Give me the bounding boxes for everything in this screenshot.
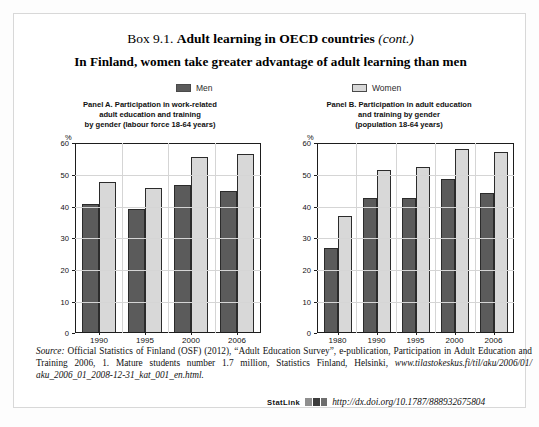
y-tick-mark: [314, 333, 317, 334]
x-tick-mark: [377, 332, 378, 335]
y-tick-label: 30: [281, 234, 311, 243]
bar-women-2006: [237, 154, 254, 333]
legend-item-women: Women: [352, 83, 401, 93]
panel-a-title-line1: Panel A. Participation in work-related: [35, 100, 265, 110]
legend-label-women: Women: [372, 83, 401, 93]
y-tick-mark: [314, 175, 317, 176]
y-tick-label: 60: [281, 139, 311, 148]
y-tick-mark: [72, 270, 75, 271]
y-tick-label: 50: [281, 171, 311, 180]
panel-a-title-line3: by gender (labour force 18-64 years): [35, 120, 265, 130]
bar-women-1990: [99, 182, 116, 332]
box-frame: Box 9.1. Adult learning in OECD countrie…: [13, 13, 526, 408]
bar-women-2006: [494, 152, 508, 332]
panel-b-title-line3: (population 18-64 years): [282, 120, 516, 130]
bar-women-1990: [377, 170, 391, 332]
legend-swatch-women-icon: [352, 84, 367, 92]
y-tick-label: 10: [39, 297, 69, 306]
y-tick-mark: [314, 270, 317, 271]
y-tick-label: 60: [39, 139, 69, 148]
bar-men-1990: [82, 204, 99, 332]
bar-women-1995: [145, 188, 162, 332]
page-root: Box 9.1. Adult learning in OECD countrie…: [0, 0, 539, 427]
panel-b-title-line2: and training by gender: [282, 110, 516, 120]
x-tick-mark: [416, 332, 417, 335]
panel-a-title-line2: adult education and training: [35, 110, 265, 120]
panel-b: Panel B. Participation in adult educatio…: [274, 100, 524, 356]
x-tick-mark: [99, 332, 100, 335]
statlink-barcode-icon: [305, 398, 327, 406]
y-tick-label: 0: [39, 329, 69, 338]
y-tick-mark: [72, 238, 75, 239]
y-tick-label: 20: [281, 266, 311, 275]
y-tick-mark: [314, 238, 317, 239]
legend-swatch-men-icon: [176, 84, 191, 92]
panel-b-title: Panel B. Participation in adult educatio…: [274, 100, 524, 129]
y-tick-mark: [314, 143, 317, 144]
gridline: [317, 175, 514, 176]
x-tick-mark: [191, 332, 192, 335]
bar-men-2006: [220, 191, 237, 332]
x-tick-mark: [455, 332, 456, 335]
source-note: Source: Official Statistics of Finland (…: [36, 345, 532, 381]
box-title-text: Adult learning in OECD countries: [177, 31, 375, 46]
y-tick-mark: [72, 143, 75, 144]
box-number: Box 9.1.: [127, 31, 173, 46]
statlink-url[interactable]: http://dx.doi.org/10.1787/888932675804: [332, 397, 485, 407]
y-tick-label: 0: [281, 329, 311, 338]
box-continued-marker: (cont.): [378, 31, 414, 46]
y-tick-mark: [72, 302, 75, 303]
y-tick-label: 30: [39, 234, 69, 243]
panel-a-axis-area: [75, 143, 261, 333]
vertical-gridline: [168, 143, 169, 333]
y-tick-label: 20: [39, 266, 69, 275]
vertical-gridline: [122, 143, 123, 333]
x-tick-mark: [237, 332, 238, 335]
x-tick-mark: [494, 332, 495, 335]
gridline: [317, 302, 514, 303]
vertical-gridline: [215, 143, 216, 333]
bar-men-2006: [480, 193, 494, 332]
statlink[interactable]: StatLink http://dx.doi.org/10.1787/88893…: [267, 397, 485, 407]
x-tick-mark: [338, 332, 339, 335]
source-lead: Source:: [36, 346, 65, 356]
chart-legend: Men Women: [14, 83, 527, 97]
vertical-gridline: [356, 143, 357, 333]
bar-women-1980: [338, 216, 352, 332]
bar-men-1980: [324, 248, 338, 333]
statlink-label: StatLink: [267, 398, 300, 407]
vertical-gridline: [475, 143, 476, 333]
gridline: [317, 207, 514, 208]
y-tick-mark: [314, 207, 317, 208]
box-subtitle: In Finland, women take greater advantage…: [14, 53, 527, 70]
bar-men-2000: [441, 179, 455, 332]
gridline: [317, 238, 514, 239]
panel-b-title-line1: Panel B. Participation in adult educatio…: [282, 100, 516, 110]
panel-a: Panel A. Participation in work-related a…: [27, 100, 273, 356]
y-tick-mark: [72, 175, 75, 176]
legend-label-men: Men: [196, 83, 213, 93]
panel-a-plot: % 1990199520002006 0102030405060: [27, 134, 273, 356]
bar-men-1995: [402, 198, 416, 332]
panel-b-axis-area: [317, 143, 514, 333]
box-title: Box 9.1. Adult learning in OECD countrie…: [14, 31, 527, 47]
x-tick-mark: [145, 332, 146, 335]
y-tick-mark: [72, 207, 75, 208]
bar-women-1995: [416, 167, 430, 332]
y-tick-mark: [72, 333, 75, 334]
y-tick-label: 40: [281, 202, 311, 211]
y-tick-mark: [314, 302, 317, 303]
y-tick-label: 10: [281, 297, 311, 306]
vertical-gridline: [396, 143, 397, 333]
vertical-gridline: [435, 143, 436, 333]
panel-a-title: Panel A. Participation in work-related a…: [27, 100, 273, 129]
legend-item-men: Men: [176, 83, 213, 93]
y-tick-label: 50: [39, 171, 69, 180]
panel-b-plot: % 19801990199520002006 0102030405060: [274, 134, 524, 356]
bar-women-2000: [455, 149, 469, 332]
bar-women-2000: [191, 157, 208, 332]
y-tick-label: 40: [39, 202, 69, 211]
gridline: [317, 270, 514, 271]
bar-men-1990: [363, 198, 377, 333]
